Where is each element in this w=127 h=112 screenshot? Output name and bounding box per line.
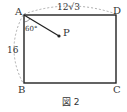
- point-p: [57, 34, 60, 37]
- vertex-label-b: B: [18, 84, 25, 95]
- angle-arc: [24, 19, 30, 22]
- vertex-label-c: C: [113, 84, 121, 95]
- point-label-p: P: [63, 27, 70, 38]
- figure-caption: 図 2: [62, 97, 80, 107]
- vertex-label-d: D: [113, 5, 121, 16]
- rectangle-abcd: [24, 15, 116, 83]
- angle-label: 60°: [25, 25, 37, 33]
- dimension-label-ad: 12√3: [57, 2, 80, 12]
- geometry-figure: A D B C P 12√3 16 60° 図 2: [0, 0, 127, 112]
- dimension-label-ab: 16: [7, 45, 19, 55]
- vertex-label-a: A: [14, 6, 23, 17]
